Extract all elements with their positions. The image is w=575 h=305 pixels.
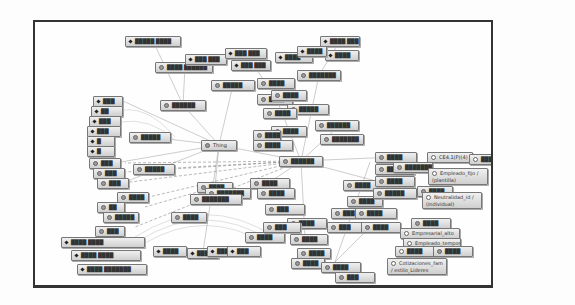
graph-node[interactable]: ████ [263, 108, 297, 119]
graph-node[interactable]: ████ [153, 246, 187, 257]
individual-icon [74, 254, 78, 258]
instance-icon [391, 261, 396, 266]
class-icon [261, 191, 266, 196]
graph-node[interactable]: █████ [103, 212, 139, 223]
graph-node-label: CE4.1(P)(4) [439, 154, 468, 160]
class-icon [325, 265, 330, 270]
graph-node[interactable]: ████ [355, 208, 397, 219]
graph-node[interactable]: ██████ [160, 100, 206, 111]
graph-node-label: Neutralidad_id / (individual) [426, 194, 474, 207]
graph-node[interactable]: ███████ [320, 134, 364, 145]
graph-node[interactable]: ███ [227, 246, 261, 257]
individual-icon [80, 268, 84, 272]
graph-node[interactable]: ████ [253, 140, 293, 151]
graph-node[interactable]: ███████ [297, 70, 341, 81]
class-icon [93, 161, 98, 166]
graph-node-label: ███ ███ [235, 50, 260, 56]
graph-node[interactable]: ██████ [315, 120, 359, 131]
graph-node[interactable]: ███ [265, 204, 305, 215]
graph-node[interactable]: ████ ███████ [77, 264, 147, 275]
class-icon [137, 167, 142, 172]
graph-node[interactable]: ████ ████ [61, 237, 145, 248]
class-icon [335, 211, 340, 216]
graph-node[interactable]: ████ [257, 188, 295, 199]
individual-icon [128, 40, 132, 44]
graph-node-label: █████ [141, 134, 160, 140]
graph-node[interactable]: █████ [373, 188, 417, 199]
graph-node[interactable]: ████ [257, 78, 295, 89]
class-icon [194, 197, 199, 202]
graph-node-hub[interactable]: ██████ [279, 156, 323, 167]
graph-node-label: █████ [299, 106, 318, 112]
ontology-graph-canvas[interactable]: Thing ██████ ████ ████ █████ ████████ ██… [33, 20, 493, 288]
class-icon [347, 183, 352, 188]
graph-node[interactable]: ████ [171, 212, 207, 223]
individual-icon [64, 241, 68, 245]
instance-icon [404, 231, 409, 236]
graph-node-label: ██████ [327, 122, 350, 128]
instance-icon [432, 171, 437, 176]
graph-node[interactable]: Cotizaciones_fam / estilo_Lideres [387, 258, 447, 275]
individual-icon [90, 150, 94, 154]
graph-node-label: ████ [373, 224, 388, 230]
individual-icon [228, 52, 232, 56]
graph-node-label: █ [97, 148, 101, 154]
class-icon [254, 181, 259, 186]
individual-icon [190, 252, 194, 256]
individual-icon [328, 54, 332, 58]
graph-node[interactable]: █ [87, 146, 115, 157]
graph-node[interactable]: ███ ███ [225, 48, 267, 59]
graph-node[interactable]: CE4.1(P)(4) [427, 152, 473, 163]
graph-node[interactable]: ████ [297, 46, 327, 57]
instance-icon [426, 195, 431, 200]
graph-node-label: █████ [145, 166, 164, 172]
graph-node-label: ████ [481, 156, 493, 162]
graph-node[interactable]: ███ [335, 272, 375, 283]
graph-node[interactable]: ███ [327, 222, 363, 233]
graph-node-label: ███ [99, 118, 111, 124]
individual-icon [210, 250, 214, 254]
graph-node[interactable]: ███ [95, 226, 125, 237]
graph-node[interactable]: ████ [271, 90, 307, 101]
individual-icon [278, 56, 282, 60]
graph-node-label: █████ [223, 82, 242, 88]
graph-node[interactable]: ████ [469, 154, 493, 165]
graph-node[interactable]: ████ [433, 246, 473, 257]
graph-node[interactable]: Neutralidad_id / (individual) [422, 192, 482, 209]
graph-node-label: █████ ████ [135, 38, 171, 44]
graph-node[interactable]: Empleado_fijo / (plantilla) [428, 168, 488, 185]
graph-node[interactable]: ███ ███ [231, 60, 271, 71]
graph-node[interactable]: ████ ████ [71, 250, 141, 261]
graph-node-label: ████ [257, 234, 272, 240]
graph-node[interactable]: ████ [291, 258, 325, 269]
graph-node[interactable]: █████ [133, 164, 175, 175]
graph-node-label: ████ [129, 194, 144, 200]
graph-node-label: ███████ [332, 136, 359, 142]
graph-node-label: ███ [275, 224, 287, 230]
graph-node-label: ███ [107, 228, 119, 234]
graph-node[interactable]: ████ [325, 50, 359, 61]
graph-node[interactable]: ███ [263, 222, 301, 233]
graph-node-label: ████ [307, 48, 322, 54]
graph-node[interactable]: ███████ [190, 194, 242, 205]
graph-node[interactable]: ███ ███ [185, 54, 227, 65]
graph-node-label: ███ [109, 180, 121, 186]
class-icon [351, 199, 356, 204]
class-icon [121, 195, 126, 200]
graph-node-thing[interactable]: Thing [201, 140, 237, 151]
class-icon [339, 275, 344, 280]
graph-node[interactable]: █████ [211, 80, 255, 91]
graph-node-label: ███ [347, 274, 359, 280]
class-icon [379, 167, 384, 172]
graph-node[interactable]: ███ [97, 178, 129, 189]
graph-node-label: ███ [105, 170, 117, 176]
graph-node[interactable]: ████ [290, 234, 328, 245]
graph-node[interactable]: ████████ [393, 162, 433, 173]
graph-node[interactable]: █████ [129, 132, 171, 143]
graph-node[interactable]: █████ ████ [125, 36, 181, 47]
graph-node[interactable]: ████ [361, 222, 401, 233]
graph-node-label: ███ [97, 128, 109, 134]
graph-node[interactable]: ████ [375, 176, 415, 187]
graph-node[interactable]: ████ [245, 232, 285, 243]
class-icon [164, 103, 169, 108]
